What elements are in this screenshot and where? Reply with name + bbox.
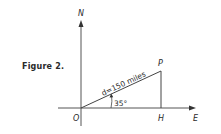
- point-p-label: P: [158, 59, 163, 68]
- north-axis: [79, 20, 84, 126]
- east-arrow-icon: [189, 106, 196, 111]
- north-label: N: [78, 9, 84, 18]
- angle-label: 35°: [114, 99, 128, 108]
- east-label: E: [193, 114, 199, 123]
- distance-label: d=150 miles: [100, 70, 147, 98]
- north-arrow-icon: [79, 20, 84, 27]
- origin-label: O: [73, 114, 79, 123]
- vector-diagram: N E O P H d=150 miles 35°: [0, 0, 221, 134]
- point-h-label: H: [158, 114, 164, 123]
- angle-arc-icon: [110, 94, 114, 109]
